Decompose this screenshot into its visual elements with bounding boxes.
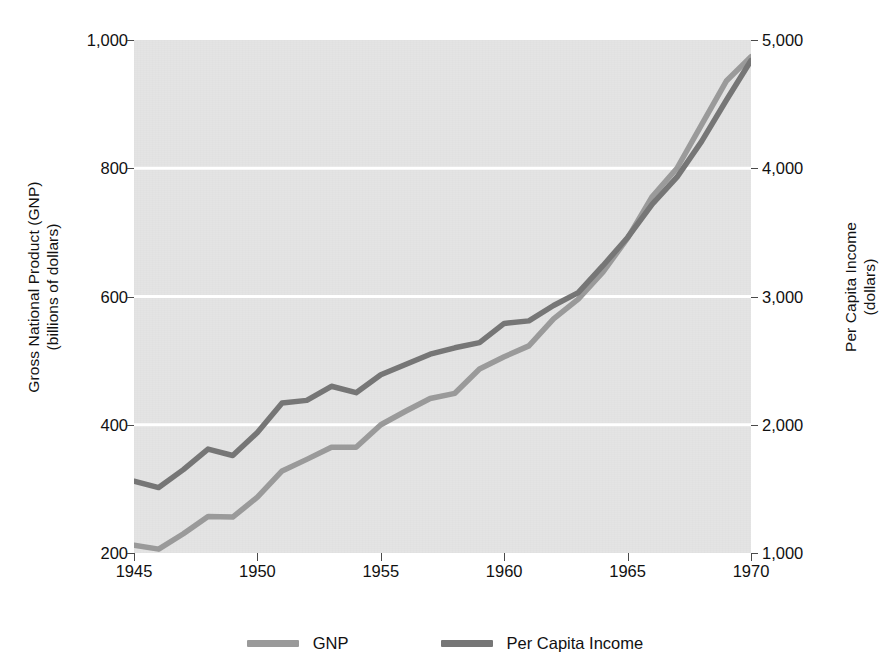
chart-figure: Gross National Product (GNP) (billions o… [0, 0, 890, 672]
legend-label: Per Capita Income [507, 634, 644, 652]
plot-svg [134, 40, 751, 553]
x-axis-tick-label: 1950 [212, 562, 302, 581]
left-axis-tick-mark [127, 168, 134, 169]
x-axis-tick-mark [257, 553, 258, 561]
left-axis-tick-mark [127, 425, 134, 426]
legend-item[interactable]: Per Capita Income [441, 634, 644, 652]
legend-swatch-icon [247, 640, 299, 647]
legend-label: GNP [313, 634, 349, 652]
x-axis-tick-label: 1955 [336, 562, 426, 581]
right-axis-tick-label: 4,000 [762, 159, 882, 177]
left-axis-tick-label: 600 [8, 288, 128, 306]
x-axis-tick-mark [751, 553, 752, 561]
plot-area [134, 40, 751, 553]
right-axis-tick-mark [751, 553, 758, 554]
x-axis-tick-mark [504, 553, 505, 561]
x-axis-tick-mark [381, 553, 382, 561]
right-axis-tick-mark [751, 40, 758, 41]
left-axis-tick-label: 200 [8, 544, 128, 562]
left-axis-tick-mark [127, 553, 134, 554]
left-axis-tick-mark [127, 40, 134, 41]
x-axis-tick-mark [134, 553, 135, 561]
right-axis-tick-mark [751, 425, 758, 426]
chart-legend: GNPPer Capita Income [0, 634, 890, 652]
right-axis-tick-label: 1,000 [762, 544, 882, 562]
x-axis-tick-label: 1965 [583, 562, 673, 581]
left-axis-tick-label: 1,000 [8, 31, 128, 49]
right-axis-tick-label: 5,000 [762, 31, 882, 49]
left-axis-tick-label: 800 [8, 159, 128, 177]
left-axis-tick-mark [127, 297, 134, 298]
right-axis-tick-mark [751, 297, 758, 298]
x-axis-tick-label: 1960 [459, 562, 549, 581]
right-axis-tick-label: 2,000 [762, 416, 882, 434]
series-line-gnp [134, 57, 751, 549]
x-axis-tick-label: 1970 [706, 562, 796, 581]
legend-swatch-icon [441, 640, 493, 647]
legend-item[interactable]: GNP [247, 634, 349, 652]
x-axis-tick-mark [628, 553, 629, 561]
left-axis-tick-label: 400 [8, 416, 128, 434]
right-axis-tick-label: 3,000 [762, 288, 882, 306]
x-axis-tick-label: 1945 [89, 562, 179, 581]
right-axis-tick-mark [751, 168, 758, 169]
